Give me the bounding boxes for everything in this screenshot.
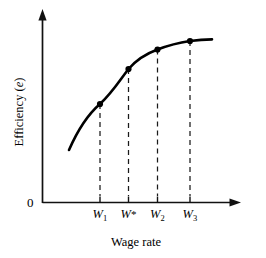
x-axis-tick-labels: W1 W* W2 W3 <box>93 207 198 223</box>
x-tick-label-wstar: W* <box>121 207 137 221</box>
origin-label: 0 <box>27 195 34 210</box>
x-tick-sub-w3: 3 <box>193 213 197 223</box>
y-axis-title-main: Efficiency <box>12 94 26 147</box>
x-axis-ticks <box>100 197 190 203</box>
efficiency-wage-chart: 0 W1 W* <box>0 0 266 258</box>
x-tick-label-w2: W2 <box>150 207 165 223</box>
chart-canvas: 0 W1 W* <box>0 0 266 258</box>
droplines <box>100 41 190 196</box>
marker-w2 <box>154 46 160 52</box>
y-axis-title-paren-close: ) <box>12 78 26 82</box>
x-axis-title: Wage rate <box>111 235 161 249</box>
marker-w1 <box>97 101 103 107</box>
x-tick-star-wstar: * <box>131 208 137 220</box>
x-tick-sub-w1: 1 <box>103 213 107 223</box>
y-axis-title: Efficiency (e) <box>12 78 26 147</box>
curve-markers <box>97 38 193 107</box>
marker-w3 <box>187 38 193 44</box>
x-tick-sub-w2: 2 <box>160 213 164 223</box>
y-axis <box>38 9 46 203</box>
x-axis <box>43 198 242 206</box>
x-axis-arrow-icon <box>230 198 242 206</box>
marker-wstar <box>125 66 131 72</box>
x-tick-label-w1: W1 <box>93 207 108 223</box>
x-tick-label-w3: W3 <box>183 207 198 223</box>
y-axis-arrow-icon <box>38 9 46 21</box>
